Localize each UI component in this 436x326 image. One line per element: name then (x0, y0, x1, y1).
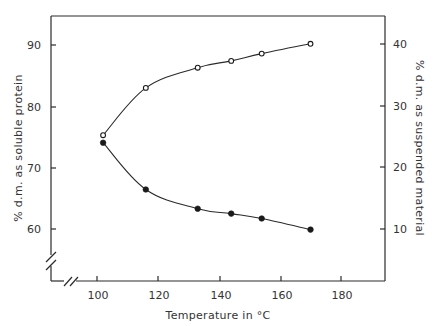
y2-axis-ticks (380, 44, 385, 229)
x-tick-label: 160 (272, 289, 293, 302)
y-tick-label: 60 (27, 223, 41, 236)
x-tick-label: 100 (88, 289, 109, 302)
x-axis-title: Temperature in °C (165, 309, 271, 322)
y-tick-label: 80 (27, 101, 41, 114)
y-tick-label: 90 (27, 39, 41, 52)
x-tick-label: 140 (211, 289, 232, 302)
y-axis-ticks (51, 45, 56, 229)
x-tick-label: 120 (149, 289, 170, 302)
filled-circle-marker-icon (195, 206, 201, 212)
filled-circle-marker-icon (100, 140, 106, 146)
y2-tick-label: 30 (393, 100, 407, 113)
chart: 90 80 70 60 40 30 20 10 100 120 140 160 … (0, 0, 436, 326)
series-line (103, 44, 310, 135)
filled-circle-marker-icon (259, 216, 265, 222)
y-tick-label: 70 (27, 162, 41, 175)
series-line (103, 143, 310, 230)
open-circle-marker-icon (229, 59, 234, 64)
x-axis-ticks (97, 276, 341, 281)
open-circle-marker-icon (143, 86, 148, 91)
series-suspended-material (100, 140, 313, 233)
filled-circle-marker-icon (143, 187, 149, 193)
filled-circle-marker-icon (308, 227, 314, 233)
plot-frame (51, 16, 385, 281)
x-axis-break-icon (64, 277, 78, 286)
open-circle-marker-icon (259, 51, 264, 56)
open-circle-marker-icon (101, 133, 106, 138)
filled-circle-marker-icon (228, 211, 234, 217)
series-soluble-protein (101, 41, 313, 137)
open-circle-marker-icon (195, 65, 200, 70)
y-axis-title: % d.m. as soluble protein (12, 74, 25, 222)
y2-tick-label: 10 (393, 223, 407, 236)
y2-axis-title: % d.m. as suspended material (413, 60, 426, 236)
y2-tick-label: 20 (393, 161, 407, 174)
y2-tick-label: 40 (393, 38, 407, 51)
x-tick-label: 180 (332, 289, 353, 302)
open-circle-marker-icon (308, 41, 313, 46)
